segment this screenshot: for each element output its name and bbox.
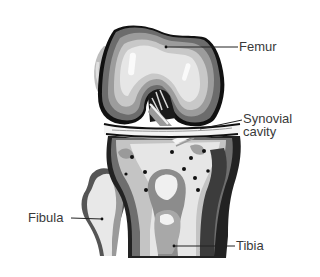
femur-label: Femur xyxy=(239,40,277,53)
synovial-cavity xyxy=(104,124,240,139)
tibia-bone xyxy=(106,134,240,258)
femur-bone xyxy=(98,26,224,127)
tibia-label: Tibia xyxy=(236,239,264,252)
synovial-cavity-label-line2: cavity xyxy=(243,125,276,138)
fibula-label: Fibula xyxy=(28,211,63,224)
